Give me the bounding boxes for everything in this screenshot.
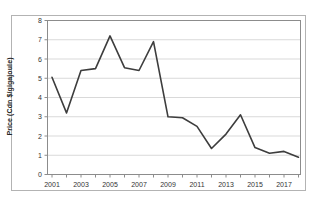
x-tick-label: 2009	[160, 181, 176, 188]
y-tick-label: 4	[38, 94, 42, 101]
y-tick-label: 3	[38, 113, 42, 120]
price-line-chart: 0123456782001200320052007200920112013201…	[0, 0, 315, 202]
price-series-line	[52, 36, 299, 157]
x-tick-label: 2011	[189, 181, 204, 188]
x-tick-label: 2015	[247, 181, 263, 188]
x-tick-label: 2005	[102, 181, 118, 188]
x-tick-label: 2007	[131, 181, 147, 188]
x-tick-label: 2013	[218, 181, 234, 188]
x-tick-label: 2001	[44, 181, 60, 188]
y-tick-label: 5	[38, 75, 42, 82]
y-tick-label: 7	[38, 36, 42, 43]
x-tick-label: 2003	[73, 181, 89, 188]
x-tick-label: 2017	[276, 181, 292, 188]
y-tick-label: 1	[38, 152, 42, 159]
y-tick-label: 8	[38, 17, 42, 24]
y-tick-label: 6	[38, 56, 42, 63]
y-tick-label: 2	[38, 133, 42, 140]
figure: Price (Cdn $/gigajoule) 0123456782001200…	[0, 0, 315, 202]
y-tick-label: 0	[38, 171, 42, 178]
